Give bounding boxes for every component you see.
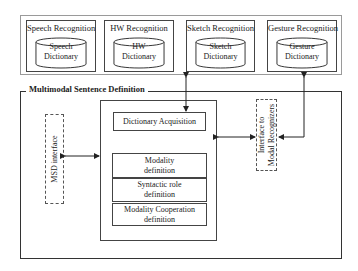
main-title: Multimodal Sentence Definition [26,84,148,94]
sketch-dictionary-label: Sketch Dictionary [195,42,246,62]
modal-recognizers-interface-label: Interface to Modal Recognizers [257,104,277,166]
syntactic-role-definition-box: Syntactic role definition [112,178,207,202]
msd-interface-label: MSD interface [50,135,60,182]
interface-line-1: Interface to [257,104,267,166]
dictionary-line-2: Dictionary [113,52,165,62]
interface-line-2: Modal Recognizers [267,104,277,166]
dictionary-acquisition-box: Dictionary Acquisition [113,112,206,131]
definition-line-2: definition [144,166,175,176]
dictionary-line-2: Dictionary [35,52,87,62]
hw-recognition-title: HW Recognition [105,23,173,33]
definition-line-1: Modality [145,156,174,166]
sketch-recognition-box: Sketch Recognition Sketch Dictionary [186,20,255,72]
speech-dictionary-label: Speech Dictionary [35,42,87,62]
hw-dictionary-cylinder: HW Dictionary [113,37,165,69]
definition-line-2: definition [144,215,175,225]
gesture-dictionary-label: Gesture Dictionary [276,42,328,62]
definition-line-2: definition [144,190,175,200]
speech-recognition-box: Speech Recognition Speech Dictionary [26,20,96,72]
sketch-recognition-title: Sketch Recognition [187,23,254,33]
speech-recognition-title: Speech Recognition [27,23,95,33]
definition-line-1: Syntactic role [137,180,181,190]
definition-line-1: Modality Cooperation [124,205,195,215]
hw-recognition-box: HW Recognition HW Dictionary [104,20,174,72]
gesture-dictionary-cylinder: Gesture Dictionary [276,37,328,69]
modality-definition-box: Modality definition [112,153,207,178]
dictionary-acquisition-label: Dictionary Acquisition [123,117,196,127]
speech-dictionary-cylinder: Speech Dictionary [35,37,87,69]
sketch-dictionary-cylinder: Sketch Dictionary [195,37,246,69]
dictionary-line-1: HW [113,42,165,52]
dictionary-line-1: Gesture [276,42,328,52]
dictionary-line-2: Dictionary [276,52,328,62]
hw-dictionary-label: HW Dictionary [113,42,165,62]
dictionary-line-2: Dictionary [195,52,246,62]
gesture-recognition-box: Gesture Recognition Gesture Dictionary [267,20,337,72]
dictionary-line-1: Sketch [195,42,246,52]
msd-interface-box: MSD interface [45,114,64,204]
gesture-recognition-title: Gesture Recognition [268,23,336,33]
dictionary-line-1: Speech [35,42,87,52]
modal-recognizers-interface-box: Interface to Modal Recognizers [256,99,277,171]
modality-cooperation-definition-box: Modality Cooperation definition [112,203,207,226]
